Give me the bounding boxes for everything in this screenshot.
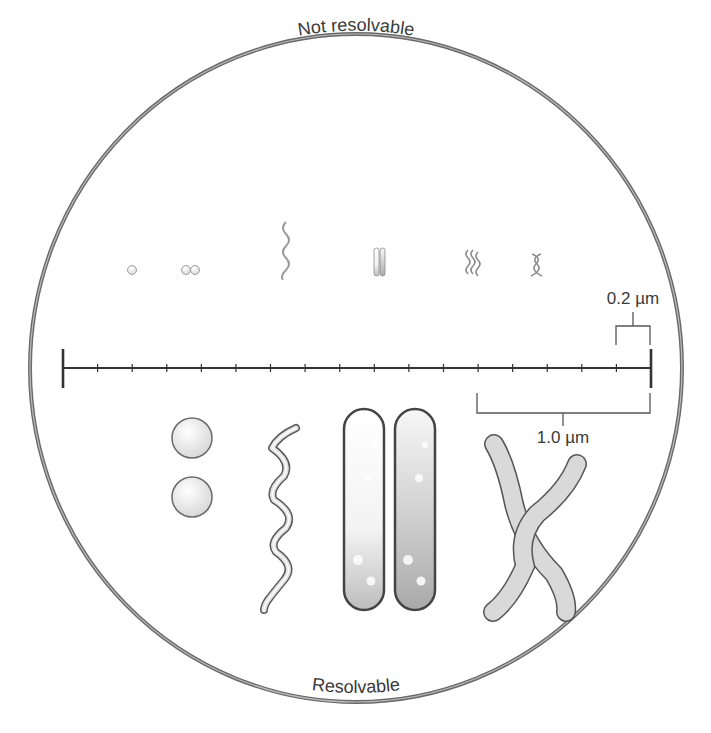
large-diplococcus-icon <box>172 418 212 517</box>
label-0-2-um: 0.2 µm <box>607 289 659 308</box>
scale-bar <box>63 349 651 388</box>
small-twisted-filaments-icon <box>531 254 542 276</box>
bracket-1-0-um <box>477 393 650 426</box>
small-spirochete-icon <box>282 222 289 280</box>
bracket-0-2-um <box>616 312 650 345</box>
small-organisms-row <box>128 222 543 280</box>
large-rod-pair-icon <box>344 409 435 610</box>
resolvable-label: Resolvable <box>311 674 401 697</box>
small-rod-pair-icon <box>374 248 385 276</box>
large-curved-rods-icon <box>493 444 577 612</box>
microscope-field-diagram: Not resolvable Resolvable <box>0 0 711 733</box>
label-1-0-um: 1.0 µm <box>537 428 589 447</box>
small-diplococcus-icon <box>182 266 200 275</box>
large-spirochete-icon <box>264 428 296 610</box>
small-coccus-icon <box>128 266 137 275</box>
small-spirilla-icon <box>466 250 480 276</box>
